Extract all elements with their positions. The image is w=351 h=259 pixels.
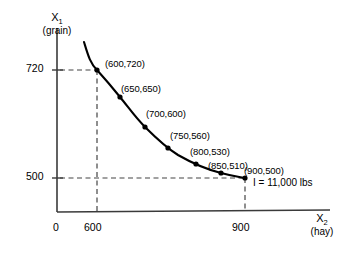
point-label-750-560: (750,560) bbox=[170, 131, 210, 141]
isoquant-figure: X1 (grain) X2 (hay) 720 500 0 600 900 (6… bbox=[0, 0, 351, 259]
x-axis-title: X2 (hay) bbox=[297, 213, 347, 238]
point-label-700-600: (700,600) bbox=[146, 109, 186, 119]
x-tick-label-0: 0 bbox=[53, 222, 59, 233]
y-tick-label-500: 500 bbox=[26, 171, 44, 182]
x-axis bbox=[57, 210, 330, 212]
x-tick-label-900: 900 bbox=[232, 222, 250, 233]
y-tick-label-720: 720 bbox=[26, 63, 44, 74]
data-point-750-560 bbox=[165, 145, 170, 150]
x-tick-label-600: 600 bbox=[84, 222, 102, 233]
data-point-800-530 bbox=[193, 161, 198, 166]
point-label-800-530: (800,530) bbox=[190, 147, 230, 157]
y-axis-title-text: X bbox=[51, 11, 58, 23]
point-label-850-510: (850,510) bbox=[208, 161, 248, 171]
point-label-650-650: (650,650) bbox=[121, 84, 161, 94]
y-axis-title: X1 (grain) bbox=[26, 12, 88, 37]
y-axis-unit: (grain) bbox=[26, 26, 88, 37]
point-label-900-500: (900,500) bbox=[244, 166, 284, 176]
data-point-700-600 bbox=[142, 124, 147, 129]
data-point-650-650 bbox=[117, 94, 122, 99]
data-point-600-720 bbox=[94, 67, 99, 72]
x-axis-unit: (hay) bbox=[297, 227, 347, 238]
point-label-600-720: (600,720) bbox=[105, 59, 145, 69]
isoquant-annotation: I = 11,000 lbs bbox=[253, 178, 313, 189]
x-axis-title-text: X bbox=[316, 212, 323, 224]
